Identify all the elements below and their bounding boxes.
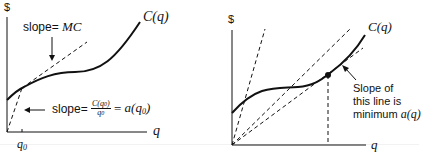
annotation-line-3-math: a(q): [401, 107, 421, 121]
mc-tangent-line: [22, 42, 87, 88]
average-cost-chord: [7, 88, 22, 132]
avg-annotation-equals: =: [111, 101, 125, 116]
avg-arrow-head: [24, 107, 30, 113]
steep-ray: [232, 29, 265, 145]
annotation-arrow-shaft: [346, 69, 356, 80]
mc-arrow-head: [49, 55, 55, 61]
left-y-axis-label: $: [4, 2, 10, 13]
left-x-axis-label: q: [153, 124, 160, 138]
right-panel: [232, 29, 366, 145]
avg-fraction: C(q0)q0: [91, 100, 111, 117]
avg-annotation: slope= C(q0)q0 = a(q0): [52, 100, 150, 117]
avg-annotation-result: a(q0): [125, 100, 151, 115]
min-ac-annotation: Slope of this line is minimum a(q): [353, 82, 421, 121]
annotation-line-3: minimum a(q): [353, 108, 421, 121]
q0-tick-label: q0: [17, 138, 27, 152]
left-curve-label: C(q): [143, 10, 169, 24]
mc-annotation: slope= MC: [23, 20, 82, 33]
right-x-axis-label: q: [371, 138, 378, 151]
min-ac-point: [325, 72, 331, 78]
annotation-line-3-prefix: minimum: [353, 108, 401, 120]
mc-annotation-prefix: slope=: [23, 20, 62, 34]
mc-annotation-value: MC: [62, 19, 82, 34]
avg-annotation-prefix: slope=: [52, 102, 91, 116]
right-curve-label: C(q): [368, 20, 392, 33]
annotation-line-1: Slope of: [353, 82, 421, 95]
right-y-axis-label: $: [228, 14, 234, 25]
avg-fraction-denominator: q0: [91, 109, 111, 117]
